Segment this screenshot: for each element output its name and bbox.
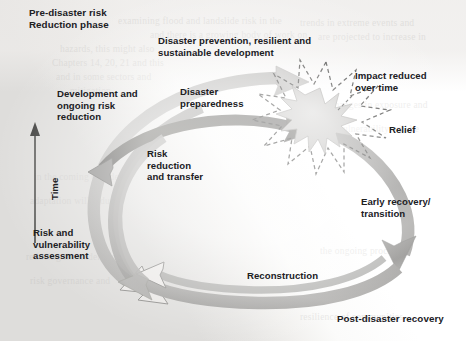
label-risk-reduction-transfer: Risk reduction and transfer	[147, 148, 203, 183]
figure-canvas: examining flood and landslide risk in th…	[0, 0, 466, 341]
time-axis-arrow	[30, 122, 40, 243]
label-development: Development and ongoing risk reduction	[57, 88, 138, 123]
label-reconstruction: Reconstruction	[247, 270, 318, 282]
label-disaster-preparedness: Disaster preparedness	[180, 86, 244, 109]
label-disaster-prevention: Disaster prevention, resilient and susta…	[158, 35, 311, 58]
label-impact-reduced: Impact reduced over time	[355, 70, 427, 93]
label-early-recovery: Early recovery/ transition	[361, 196, 431, 219]
label-relief: Relief	[389, 124, 415, 136]
label-risk-assessment: Risk and vulnerability assessment	[33, 227, 90, 262]
label-pre-disaster-phase: Pre-disaster risk Reduction phase	[29, 7, 109, 30]
label-time-axis: Time	[49, 178, 60, 200]
label-post-disaster-recovery: Post-disaster recovery	[337, 313, 444, 325]
